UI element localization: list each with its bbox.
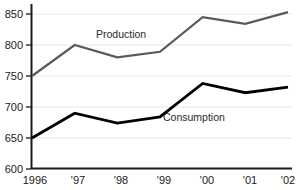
x-tick-label-02: '02 [281,174,295,186]
chart-plot-area: 850 800 750 700 650 600 1996 '97 '98 '99… [0,0,297,190]
line-chart: 850 800 750 700 650 600 1996 '97 '98 '99… [0,0,297,190]
y-tick-label-650: 650 [5,132,23,144]
production-series-label: Production [96,28,146,40]
y-tick-label-750: 750 [5,70,23,82]
x-tick-label-01: '01 [243,174,257,186]
x-tick-label-00: '00 [200,174,214,186]
x-tick-label-1996: 1996 [23,174,47,186]
chart-background [0,0,297,190]
x-tick-label-98: '98 [114,174,128,186]
x-tick-label-97: '97 [71,174,85,186]
y-tick-label-800: 800 [5,39,23,51]
y-tick-label-600: 600 [5,163,23,175]
y-tick-label-700: 700 [5,101,23,113]
y-tick-label-850: 850 [5,8,23,20]
x-tick-label-99: '99 [157,174,171,186]
consumption-series-label: Consumption [163,111,225,123]
